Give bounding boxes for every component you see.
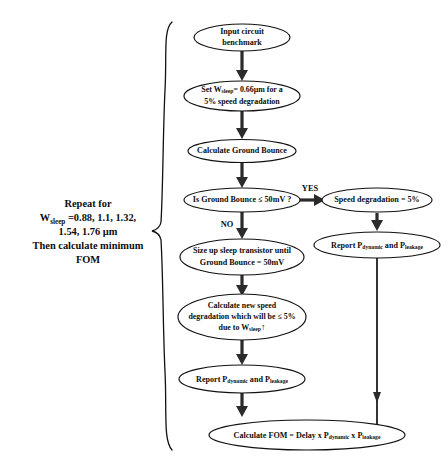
node-calcnew-line2: degradation which will be ≤ 5% bbox=[188, 312, 295, 321]
node-reportright-sub2: leakage bbox=[405, 244, 424, 250]
node-decision-line1: Is Ground Bounce ≤ 50mV ? bbox=[193, 195, 291, 204]
edge-calcnew-to-reportmid bbox=[236, 340, 248, 365]
node-input-line1: Input circuit bbox=[220, 27, 264, 36]
flowchart-canvas: YES NO Input circuit benchmark bbox=[0, 0, 448, 471]
node-setw-l1b: = 0.66µm for a bbox=[233, 85, 282, 94]
caption-line2-sub: sleep bbox=[50, 218, 65, 226]
node-calcnew-l3sub: sleep bbox=[249, 326, 261, 332]
edge-setw-to-calcgb bbox=[236, 110, 248, 139]
node-reportright-sub1: dynamic bbox=[362, 244, 383, 250]
repeat-caption: Repeat for Wsleep =0.88, 1.1, 1.32, 1.54… bbox=[33, 198, 144, 265]
node-report-power-right[interactable]: Report Pdynamic and Pleakage bbox=[314, 232, 440, 258]
edge-label-no: NO bbox=[221, 220, 234, 229]
node-speed-degradation[interactable]: Speed degradation = 5% bbox=[322, 188, 432, 212]
caption-line2: Wsleep =0.88, 1.1, 1.32, bbox=[40, 212, 137, 226]
node-size-up-sleep-transistor[interactable]: Size up sleep transistor until Ground Bo… bbox=[180, 239, 304, 275]
node-fom-sub1: dynamic bbox=[329, 434, 350, 440]
up-arrow-icon: ↑ bbox=[261, 322, 266, 332]
edge-reportright-to-fom bbox=[373, 258, 381, 424]
edge-calcgb-to-decision bbox=[236, 163, 248, 188]
node-calculate-new-speed-degradation[interactable]: Calculate new speed degradation which wi… bbox=[178, 294, 306, 340]
edge-decision-yes bbox=[300, 194, 325, 206]
caption-line4: Then calculate minimum bbox=[33, 240, 144, 251]
node-reportright-a: Report P bbox=[331, 240, 362, 249]
node-reportmid-sub2: leakage bbox=[270, 378, 289, 384]
node-setw-l1a: Set W bbox=[201, 85, 221, 94]
edge-decision-no bbox=[236, 212, 248, 239]
caption-line2-suffix: =0.88, 1.1, 1.32, bbox=[65, 212, 136, 223]
node-fom-a: Calculate FOM = Delay bbox=[234, 430, 318, 439]
node-fom-text: Calculate FOM = Delay x Pdynamic x Pleak… bbox=[234, 430, 381, 440]
node-calcgb-line1: Calculate Ground Bounce bbox=[197, 146, 287, 155]
node-speeddeg-line1: Speed degradation = 5% bbox=[334, 195, 419, 204]
node-input-line2: benchmark bbox=[222, 38, 262, 47]
edge-input-to-setw bbox=[236, 50, 248, 81]
edge-label-yes: YES bbox=[302, 184, 319, 193]
node-setw-line1: Set Wsleep= 0.66µm for a bbox=[201, 85, 282, 95]
node-fom-c: P bbox=[355, 430, 362, 439]
node-input-circuit-benchmark[interactable]: Input circuit benchmark bbox=[194, 24, 290, 51]
node-decision-ground-bounce[interactable]: Is Ground Bounce ≤ 50mV ? bbox=[184, 188, 300, 212]
node-calculate-ground-bounce[interactable]: Calculate Ground Bounce bbox=[188, 140, 296, 163]
node-setw-line2: 5% speed degradation bbox=[204, 97, 280, 106]
repeat-loop-brace bbox=[152, 22, 172, 450]
caption-line1: Repeat for bbox=[64, 198, 111, 209]
node-set-wsleep[interactable]: Set Wsleep= 0.66µm for a 5% speed degrad… bbox=[184, 81, 300, 111]
caption-line5: FOM bbox=[76, 254, 100, 265]
edge-speeddeg-to-reportright bbox=[371, 213, 383, 231]
node-setw-l1sub: sleep bbox=[222, 88, 234, 94]
node-sizeup-line2: Ground Bounce = 50mV bbox=[200, 258, 284, 267]
caption-line2-prefix: W bbox=[40, 212, 51, 223]
node-reportmid-sub1: dynamic bbox=[227, 378, 248, 384]
node-sizeup-line1: Size up sleep transistor until bbox=[193, 246, 292, 255]
node-report-power-middle[interactable]: Report Pdynamic and Pleakage bbox=[179, 365, 305, 393]
edge-sizeup-to-calcnew bbox=[236, 275, 248, 296]
node-reportmid-a: Report P bbox=[196, 374, 227, 383]
edge-reportmid-to-fom bbox=[236, 393, 248, 417]
node-reportmid-b: and P bbox=[248, 374, 270, 383]
caption-line3: 1.54, 1.76 µm bbox=[59, 226, 118, 237]
node-reportright-b: and P bbox=[383, 240, 405, 249]
node-calcnew-line1: Calculate new speed bbox=[208, 301, 277, 310]
node-calcnew-l3a: due to W bbox=[219, 323, 250, 332]
node-fom-b: P bbox=[322, 430, 329, 439]
node-calculate-fom[interactable]: Calculate FOM = Delay x Pdynamic x Pleak… bbox=[209, 420, 405, 450]
node-fom-sub2: leakage bbox=[362, 434, 381, 440]
